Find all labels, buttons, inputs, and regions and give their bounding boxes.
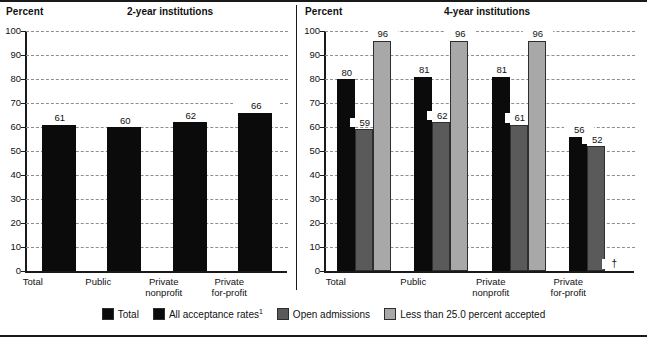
bar[interactable]: [107, 127, 141, 271]
panel-4-year-institutions: Percent 4-year institutions 100908070605…: [297, 2, 647, 302]
bar[interactable]: [492, 77, 510, 271]
y-tick-mark-50: [320, 151, 325, 152]
panel-2-year-institutions: Percent 2-year institutions 100908070605…: [0, 2, 297, 302]
bar-group: 66: [238, 31, 272, 271]
y-tick-label-90: 90: [297, 50, 320, 60]
bar[interactable]: [355, 129, 373, 271]
y-tick-label-70: 70: [297, 98, 320, 108]
bar[interactable]: [414, 77, 432, 271]
legend-item[interactable]: Open admissions: [277, 308, 370, 320]
bar[interactable]: [173, 122, 207, 271]
legend-label: Less than 25.0 percent accepted: [400, 309, 545, 320]
legend-label: All acceptance rates1: [169, 308, 263, 320]
y-tick-mark-20: [320, 223, 325, 224]
legend-swatch-icon: [277, 308, 289, 320]
y-tick-label-40: 40: [0, 170, 21, 180]
bar-group: 60: [107, 31, 141, 271]
y-tick-label-100: 100: [297, 26, 320, 36]
y-tick-mark-60: [21, 127, 26, 128]
y-tick-label-0: 0: [297, 266, 320, 276]
bar-group: 61: [42, 31, 76, 271]
bar[interactable]: [337, 79, 355, 271]
bar[interactable]: [587, 146, 605, 271]
y-tick-label-80: 80: [0, 74, 21, 84]
y-tick-label-30: 30: [297, 194, 320, 204]
bar-group: 62: [173, 31, 207, 271]
y-axis-unit-label-right: Percent: [305, 6, 342, 17]
y-tick-label-40: 40: [297, 170, 320, 180]
y-tick-label-0: 0: [0, 266, 21, 276]
y-tick-label-90: 90: [0, 50, 21, 60]
y-tick-mark-30: [320, 199, 325, 200]
plot-area-2-year: 100908070605040302010061606266: [26, 31, 288, 271]
y-tick-label-80: 80: [297, 74, 320, 84]
figure-frame: Percent 2-year institutions 100908070605…: [0, 0, 647, 337]
x-category-label: Total: [297, 276, 375, 287]
y-tick-mark-90: [21, 55, 26, 56]
legend-label: Open admissions: [293, 309, 370, 320]
panel-title-2-year: 2-year institutions: [60, 6, 280, 17]
x-category-label: Private for-profit: [530, 276, 608, 298]
bar-value-label: 52: [582, 135, 612, 145]
y-tick-mark-70: [21, 103, 26, 104]
chart-legend: TotalAll acceptance rates1Open admission…: [0, 308, 647, 320]
x-category-label: Private nonprofit: [452, 276, 530, 298]
bar-value-label: 81: [487, 65, 517, 75]
bar-value-label: 96: [523, 29, 553, 39]
bar-value-label: 96: [368, 29, 398, 39]
bar-group: 805996: [337, 31, 391, 271]
legend-footnote-marker: 1: [259, 308, 263, 315]
y-tick-label-10: 10: [0, 242, 21, 252]
legend-item[interactable]: Total: [102, 308, 139, 320]
bar-value-label: 80: [332, 68, 362, 78]
x-category-label: Private for-profit: [197, 276, 263, 298]
y-tick-label-60: 60: [0, 122, 21, 132]
y-tick-label-10: 10: [297, 242, 320, 252]
bar[interactable]: [373, 41, 391, 271]
bar[interactable]: [238, 113, 272, 271]
y-axis-unit-label-left: Percent: [6, 6, 43, 17]
bar[interactable]: [432, 122, 450, 271]
legend-swatch-icon: [102, 308, 114, 320]
bar-value-label: 66: [233, 101, 279, 111]
bar[interactable]: [528, 41, 546, 271]
y-tick-mark-30: [21, 199, 26, 200]
y-tick-label-50: 50: [0, 146, 21, 156]
legend-swatch-icon: [384, 308, 396, 320]
x-axis-line-left: [25, 271, 287, 273]
bar-value-label: 60: [102, 116, 148, 126]
y-tick-label-70: 70: [0, 98, 21, 108]
y-tick-label-20: 20: [297, 218, 320, 228]
y-tick-mark-0: [320, 271, 325, 272]
y-tick-mark-100: [320, 31, 325, 32]
x-category-label: Private nonprofit: [131, 276, 197, 298]
legend-item[interactable]: Less than 25.0 percent accepted: [384, 308, 545, 320]
bar-group: 816196: [492, 31, 546, 271]
bar-group: 816296: [414, 31, 468, 271]
y-tick-label-50: 50: [297, 146, 320, 156]
bar[interactable]: [450, 41, 468, 271]
y-tick-label-60: 60: [297, 122, 320, 132]
legend-item[interactable]: All acceptance rates1: [153, 308, 263, 320]
plot-area-4-year: 1009080706050403020100805996816296816196…: [325, 31, 635, 271]
y-tick-label-100: 100: [0, 26, 21, 36]
bar-value-label: 61: [37, 113, 83, 123]
y-tick-mark-80: [21, 79, 26, 80]
bar[interactable]: [569, 137, 587, 271]
x-category-label: Public: [375, 276, 453, 287]
x-category-label: Public: [66, 276, 132, 287]
panels-container: Percent 2-year institutions 100908070605…: [0, 2, 647, 302]
bar-value-label: 62: [168, 111, 214, 121]
x-axis-line-right: [324, 271, 634, 273]
y-tick-mark-10: [21, 247, 26, 248]
legend-swatch-icon: [153, 308, 165, 320]
panel-title-4-year: 4-year institutions: [357, 6, 617, 17]
y-tick-mark-50: [21, 151, 26, 152]
y-tick-mark-80: [320, 79, 325, 80]
not-applicable-symbol: †: [602, 259, 626, 269]
bar[interactable]: [510, 125, 528, 271]
bar-value-label: 81: [409, 65, 439, 75]
y-tick-mark-0: [21, 271, 26, 272]
bar[interactable]: [42, 125, 76, 271]
y-tick-label-30: 30: [0, 194, 21, 204]
